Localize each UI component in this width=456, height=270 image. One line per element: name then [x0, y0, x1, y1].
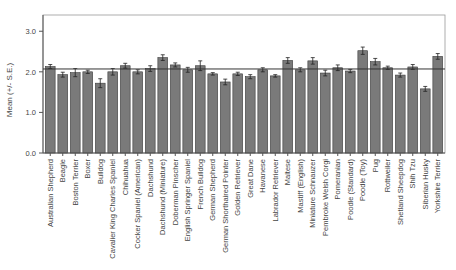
x-tick-label: Siberian Husky: [421, 159, 430, 210]
y-axis-title: Mean (+/- S.E.): [2, 40, 16, 140]
bar: [108, 72, 118, 153]
x-tick-label: Rottweiler: [383, 158, 392, 192]
bar: [58, 75, 68, 153]
bar: [408, 67, 418, 153]
bar: [283, 60, 293, 153]
x-tick-label: Cocker Spaniel (American): [133, 159, 142, 249]
x-tick-label: Miniature Schnauzer: [308, 159, 317, 228]
x-tick-label: Yorkshire Terrier: [433, 159, 442, 214]
x-tick-label: Poodle (Toy): [358, 159, 367, 202]
bar: [270, 76, 280, 153]
x-tick-label: Havanese: [258, 159, 267, 193]
bar: [295, 70, 305, 153]
bar: [133, 72, 143, 153]
bar-series: [45, 47, 442, 153]
bar: [370, 62, 380, 153]
bar: [433, 56, 443, 153]
x-tick-label: Doberman Pinscher: [171, 158, 180, 225]
x-tick-label: Bulldog: [96, 159, 105, 184]
x-tick-label: Boxer: [83, 158, 92, 178]
y-tick-label: 1.0: [26, 108, 36, 117]
y-axis: 0.01.02.03.0: [26, 15, 43, 158]
x-tick-label: Boston Terrier: [71, 159, 80, 206]
bar: [220, 82, 230, 153]
x-tick-label: English Springer Spaniel: [183, 159, 192, 241]
bar: [345, 71, 355, 153]
x-tick-label: German Shorthaired Pointer: [221, 159, 230, 253]
bar: [120, 66, 130, 153]
x-tick-label: Chihuahua: [121, 158, 130, 195]
x-tick-label: Australian Shepherd: [46, 159, 55, 227]
bar: [158, 58, 168, 153]
bar: [83, 72, 93, 153]
x-tick-label: Pug: [371, 159, 380, 172]
x-tick-label: Shetland Sheepdog: [396, 159, 405, 225]
x-axis: Australian ShepherdBeagleBoston TerrierB…: [43, 153, 445, 259]
x-tick-label: Pomeranian: [333, 159, 342, 199]
x-tick-label: Cavalier King Charles Spaniel: [108, 159, 117, 259]
x-tick-label: German Shepherd: [208, 159, 217, 221]
x-tick-label: Dachshund: [146, 159, 155, 197]
bar: [320, 73, 330, 153]
x-tick-label: Golden Retriever: [233, 159, 242, 216]
bar: [420, 89, 430, 153]
bar: [195, 66, 205, 153]
x-tick-label: Maltese: [283, 159, 292, 185]
x-tick-label: Pembroke Welsh Corgi: [321, 159, 330, 236]
bar: [95, 83, 105, 153]
x-tick-label: Dachshund (Miniature): [158, 159, 167, 235]
bar: [308, 61, 318, 153]
x-tick-label: Poodle (Standard): [346, 159, 355, 220]
bar: [333, 68, 343, 153]
bar-chart: 0.01.02.03.0 Australian ShepherdBeagleBo…: [0, 0, 456, 270]
bar: [358, 51, 368, 153]
bar: [70, 73, 80, 153]
y-tick-label: 0.0: [26, 149, 36, 158]
x-tick-label: Beagle: [58, 159, 67, 182]
bar: [233, 74, 243, 153]
bar: [208, 74, 218, 153]
x-tick-label: Shih Tzu: [408, 159, 417, 188]
x-tick-label: Great Dane: [246, 159, 255, 198]
bar: [245, 77, 255, 153]
bar: [45, 67, 55, 153]
y-axis-title-text: Mean (+/- S.E.): [5, 63, 14, 117]
y-tick-label: 2.0: [26, 68, 36, 77]
bar: [395, 75, 405, 153]
x-tick-label: French Bulldog: [196, 159, 205, 209]
bar: [258, 70, 268, 153]
bar: [183, 70, 193, 153]
bar: [383, 68, 393, 153]
x-tick-label: Mastiff (English): [296, 159, 305, 213]
bar: [145, 69, 155, 153]
bar: [170, 65, 180, 153]
x-tick-label: Labrador Retriever: [271, 158, 280, 221]
y-tick-label: 3.0: [26, 27, 36, 36]
